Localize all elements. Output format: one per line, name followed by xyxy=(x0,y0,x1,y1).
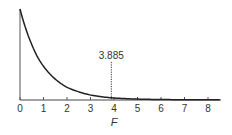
f-distribution-chart: 012345678 3.885 F xyxy=(0,0,232,135)
x-tick-label: 5 xyxy=(135,103,141,114)
x-tick-label: 6 xyxy=(158,103,164,114)
x-tick-label: 0 xyxy=(17,103,23,114)
x-tick-label: 8 xyxy=(205,103,211,114)
x-tick-label: 3 xyxy=(88,103,94,114)
critical-value-label: 3.885 xyxy=(99,50,124,61)
x-tick-label: 2 xyxy=(64,103,70,114)
x-axis-tick-labels: 012345678 xyxy=(17,103,211,114)
x-tick-label: 4 xyxy=(111,103,117,114)
x-tick-label: 7 xyxy=(182,103,188,114)
x-tick-label: 1 xyxy=(41,103,47,114)
x-axis-label: F xyxy=(111,116,119,128)
